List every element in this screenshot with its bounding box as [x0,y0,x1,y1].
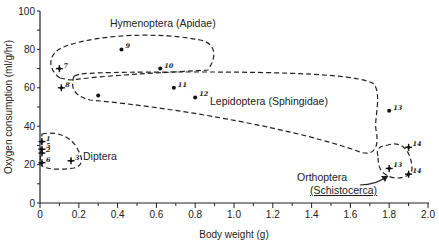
y-tick-label: 0 [29,198,35,209]
x-tick-label: 0.6 [149,209,163,220]
y-tick-label: 20 [24,159,36,170]
x-tick-label: 1.6 [343,209,357,220]
scatter-chart: 020406080100 00.20.40.60.81.01.21.41.61.… [0,0,439,247]
dot-marker: 9 [119,42,130,51]
y-axis: 020406080100 [18,6,40,209]
point-label: 12 [199,90,209,98]
cross-marker: 8 [58,81,70,92]
arrowhead-icon [381,176,388,182]
dot-marker: 11 [172,81,187,90]
x-axis-title: Body weight (g) [199,229,268,240]
x-tick-label: 0.4 [111,209,125,220]
label-lepidoptera: Lepidoptera (Sphingidae) [210,95,328,107]
y-tick-label: 80 [24,44,36,55]
x-tick-label: 0 [37,209,43,220]
label-orthoptera: Orthoptera [297,171,347,183]
dot-marker: 10 [158,62,174,71]
point-label: 14 [413,167,423,175]
x-tick-label: 1.8 [382,209,396,220]
x-tick-label: 1.0 [227,209,241,220]
point-label: 9 [125,42,130,50]
point-label: 11 [178,81,187,89]
point-label: 8 [65,81,70,89]
point-label: 2 [45,146,51,154]
dot-marker: 12 [193,90,209,99]
point-label: 3 [75,154,80,162]
x-tick-label: 2.0 [421,209,435,220]
point-label: 13 [393,161,403,169]
cross-marker: 14 [405,140,422,151]
point-label: 14 [413,140,423,148]
dot-marker: 13 [387,104,403,113]
x-axis: 00.20.40.60.81.01.21.41.61.82.0 [37,203,435,220]
point-label: 7 [63,62,68,70]
point-label: 10 [164,62,174,70]
x-tick-label: 0.2 [72,209,86,220]
label-hymenoptera: Hymenoptera (Apidae) [110,17,216,29]
label-orthoptera-genus: (Schistocerca) [310,184,377,196]
region-hymenoptera [51,35,214,80]
y-tick-label: 60 [24,82,36,93]
label-diptera: Diptera [83,150,117,162]
y-axis-title: Oxygen consumption (ml/g/hr) [3,40,14,174]
point-label: 6 [46,156,51,164]
x-tick-label: 1.4 [305,209,319,220]
cross-marker: 13 [386,161,403,172]
x-tick-label: 0.8 [188,209,202,220]
dot-marker [96,93,100,97]
point-label: 13 [393,104,403,112]
x-tick-label: 1.2 [266,209,280,220]
cross-marker: 7 [56,62,69,73]
y-tick-label: 40 [24,121,36,132]
y-tick-label: 100 [18,6,35,17]
region-lepidoptera [73,72,378,153]
cross-marker: 3 [68,154,81,165]
